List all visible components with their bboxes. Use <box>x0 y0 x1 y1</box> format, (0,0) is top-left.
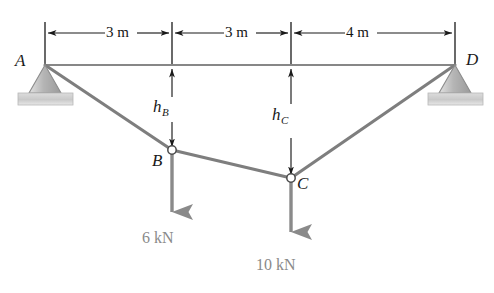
support-a <box>18 65 73 105</box>
support-a-triangle <box>29 65 61 93</box>
height-label-b-subscript: B <box>162 106 169 118</box>
height-label-c: hC <box>272 106 288 123</box>
height-label-c-subscript: C <box>281 114 288 126</box>
support-a-ground <box>18 93 73 105</box>
joint-label-c: C <box>297 175 308 192</box>
support-d <box>428 65 483 105</box>
dimension-label-cd: 4 m <box>346 25 369 40</box>
height-label-c-base: h <box>272 105 281 124</box>
height-label-b: hB <box>153 98 168 115</box>
cable-segment-bc <box>172 150 291 178</box>
support-d-ground <box>428 93 483 105</box>
cable-segments <box>45 65 455 178</box>
load-label-b: 6 kN <box>142 230 174 246</box>
joint-circle-c <box>287 174 295 182</box>
statics-diagram <box>0 0 494 293</box>
cable-segment-cd <box>291 65 455 178</box>
joint-circle-b <box>168 146 176 154</box>
joint-label-a: A <box>15 52 25 69</box>
load-arrows <box>172 150 291 232</box>
load-label-c: 10 kN <box>256 257 296 273</box>
figure-canvas: A B C D 3 m 3 m 4 m hB hC 6 kN 10 kN <box>0 0 494 293</box>
joint-label-b: B <box>152 152 162 169</box>
dimension-label-ab: 3 m <box>106 25 129 40</box>
height-label-b-base: h <box>153 97 162 116</box>
joint-label-d: D <box>466 51 478 68</box>
dimension-label-bc: 3 m <box>225 25 248 40</box>
support-d-triangle <box>439 65 471 93</box>
